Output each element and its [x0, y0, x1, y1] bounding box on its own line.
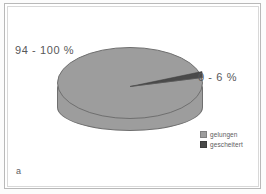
legend-swatch-gelungen [200, 131, 207, 138]
legend-item-gescheitert: gescheitert [200, 140, 258, 149]
pie-label-major: 94 - 100 % [15, 44, 74, 56]
pie-top-face [57, 47, 203, 118]
chart-legend: gelungen gescheitert [200, 130, 258, 150]
legend-label-gelungen: gelungen [210, 131, 238, 138]
figure-container: 94 - 100 % 0 - 6 % gelungen gescheitert … [0, 0, 266, 194]
pie-label-minor: 0 - 6 % [198, 71, 237, 83]
pie-chart [57, 47, 203, 131]
legend-label-gescheitert: gescheitert [210, 141, 243, 148]
legend-item-gelungen: gelungen [200, 130, 258, 139]
pie-slice-gelungen [58, 48, 203, 119]
legend-swatch-gescheitert [200, 141, 207, 148]
figure-letter-label: a [16, 166, 21, 176]
